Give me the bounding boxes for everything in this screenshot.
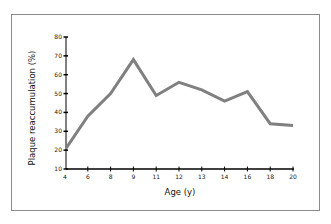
y-axis: 1020304050607080 [54,33,68,172]
y-tick-label: 50 [54,90,62,97]
x-tick-label: 4 [63,173,67,180]
x-tick-label: 14 [221,173,229,180]
y-tick-label: 40 [54,108,62,115]
y-tick-label: 20 [54,146,62,153]
x-tick-label: 8 [109,173,113,180]
x-tick-label: 11 [152,173,160,180]
y-tick-label: 70 [54,52,62,59]
y-tick-label: 10 [54,165,62,172]
x-tick-label: 9 [131,173,135,180]
x-axis-title: Age (y) [165,187,196,197]
data-line [66,60,293,149]
x-axis: 468911121314161820 [63,167,297,181]
x-tick-label: 13 [198,173,206,180]
x-tick-label: 20 [289,173,297,180]
x-tick-label: 16 [244,173,252,180]
y-tick-label: 30 [54,127,62,134]
x-tick-label: 18 [266,173,274,180]
line-chart: 1020304050607080 468911121314161820 Age … [0,0,331,224]
y-axis-title: Plaque reaccumulation (%) [27,51,37,166]
y-tick-label: 80 [54,33,62,40]
x-tick-label: 6 [86,173,90,180]
x-tick-label: 12 [175,173,183,180]
y-tick-label: 60 [54,71,62,78]
